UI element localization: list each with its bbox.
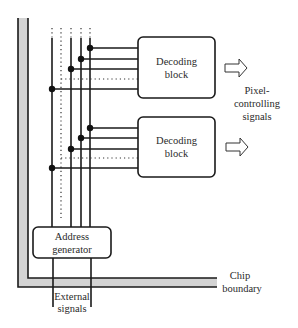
- external-label-line1: External: [54, 291, 90, 302]
- output-label-line3: signals: [242, 111, 271, 122]
- decoding-block-2-label-line1: Decoding: [156, 135, 198, 146]
- address-generator-label-line1: Address: [55, 231, 89, 242]
- address-generator-block: Address generator: [33, 227, 111, 258]
- decoding-block-1: Decoding block: [138, 37, 215, 98]
- pixel-controlling-signals-label: Pixel- controlling signals: [234, 85, 281, 122]
- decoding-block-1-label-line2: block: [165, 69, 189, 80]
- junction-node: [49, 86, 55, 92]
- decoding-block-2-label-line2: block: [165, 148, 189, 159]
- junction-node: [78, 56, 84, 62]
- junction-node: [68, 66, 74, 72]
- junction-node: [68, 146, 74, 152]
- output-label-line1: Pixel-: [244, 85, 270, 96]
- junction-node: [49, 165, 55, 171]
- boundary-label-line1: Chip: [230, 270, 250, 281]
- boundary-label-line2: boundary: [222, 283, 262, 294]
- address-generator-label-line2: generator: [52, 244, 92, 255]
- external-signals-label: External signals: [54, 290, 90, 314]
- junction-node: [78, 135, 84, 141]
- output-label-line2: controlling: [234, 98, 281, 109]
- decoder-1-connections: [49, 45, 138, 92]
- chip-boundary-label: Chip boundary: [222, 270, 262, 294]
- decoder-2-connections: [49, 125, 138, 171]
- junction-node: [87, 45, 93, 51]
- output-arrow-icon: [225, 59, 247, 77]
- chip-diagram: Decoding block Decoding block Pixel- con…: [0, 0, 298, 328]
- decoding-block-1-label-line1: Decoding: [156, 56, 198, 67]
- decoding-block-2: Decoding block: [138, 117, 215, 177]
- junction-node: [87, 125, 93, 131]
- external-label-line2: signals: [57, 303, 86, 314]
- output-arrow-icon: [226, 138, 248, 156]
